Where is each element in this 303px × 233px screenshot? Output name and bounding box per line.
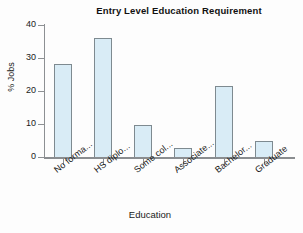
x-axis-line xyxy=(44,157,295,159)
y-tick-mark xyxy=(38,91,44,92)
bar xyxy=(94,38,112,157)
y-axis-line xyxy=(44,24,45,158)
y-tick-label: 40 xyxy=(8,19,36,29)
y-tick-mark xyxy=(38,124,44,125)
y-tick-mark xyxy=(38,157,44,158)
x-axis-title: Education xyxy=(50,209,250,220)
bar-chart: Entry Level Education Requirement % Jobs… xyxy=(0,0,303,233)
y-tick-label: 30 xyxy=(8,52,36,62)
bar xyxy=(54,64,72,157)
bar xyxy=(215,86,233,157)
y-tick-label: 10 xyxy=(8,118,36,128)
y-tick-label: 0 xyxy=(8,151,36,161)
chart-title: Entry Level Education Requirement xyxy=(60,5,298,16)
y-tick-label: 20 xyxy=(8,85,36,95)
y-tick-mark xyxy=(38,58,44,59)
y-tick-mark xyxy=(38,25,44,26)
